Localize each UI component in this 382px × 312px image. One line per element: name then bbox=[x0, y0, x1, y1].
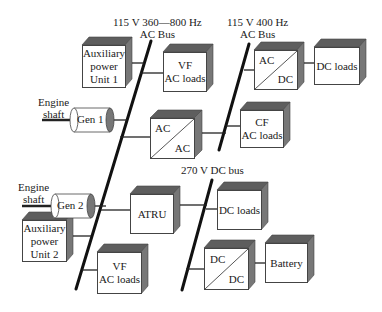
generator-2: Gen 2 bbox=[57, 199, 84, 211]
dc-loads-top: DC loads bbox=[314, 47, 360, 85]
dcdc-input-label: DC bbox=[210, 253, 225, 266]
engine-shaft-2-label: Engine shaft bbox=[18, 181, 49, 205]
cf-bus-voltage: 115 V 400 Hz bbox=[227, 16, 288, 28]
apu2-line1: Auxiliary bbox=[23, 222, 65, 235]
cf-ac-loads: CFAC loads bbox=[240, 110, 284, 148]
atru-label: ATRU bbox=[138, 208, 167, 221]
vf-ac-loads-bottom: VFAC loads bbox=[97, 252, 142, 294]
ac-dc-converter: AC DC bbox=[254, 50, 298, 90]
vf-ac-loads-top: VFAC loads bbox=[163, 52, 207, 92]
vf-top-top bbox=[163, 44, 213, 52]
engine-shaft-1-label: Engine shaft bbox=[38, 96, 69, 120]
vf-top-line2: AC loads bbox=[164, 72, 205, 85]
acac-input-label: AC bbox=[155, 122, 170, 135]
shaft2-text: shaft bbox=[18, 193, 49, 205]
auxiliary-power-unit-2: AuxiliarypowerUnit 2 bbox=[22, 220, 67, 262]
engine2-text: Engine bbox=[18, 181, 49, 193]
apu1-line3: Unit 1 bbox=[83, 73, 125, 86]
dc-bus-label: 270 V DC bus bbox=[181, 164, 244, 176]
cf-line2: AC loads bbox=[241, 129, 282, 142]
engine1-text: Engine bbox=[38, 96, 69, 108]
vf-top-line1: VF bbox=[164, 59, 205, 72]
vf-bus-voltage: 115 V 360—800 Hz bbox=[113, 16, 202, 28]
apu1-side bbox=[125, 37, 132, 87]
apu1-line2: power bbox=[83, 60, 125, 73]
dc-loads-mid-label: DC loads bbox=[219, 204, 260, 217]
battery-label: Battery bbox=[270, 257, 302, 270]
atru: ATRU bbox=[130, 194, 174, 234]
vf-bot-line1: VF bbox=[99, 260, 140, 273]
dcdc-output-label: DC bbox=[229, 273, 244, 286]
acac-output-label: AC bbox=[175, 142, 190, 155]
battery: Battery bbox=[265, 243, 308, 283]
dc-loads-mid: DC loads bbox=[217, 190, 262, 230]
vf-bus-label: 115 V 360—800 Hz AC Bus bbox=[113, 16, 202, 40]
cf-bus-type: AC Bus bbox=[227, 28, 288, 40]
cf-line1: CF bbox=[241, 116, 282, 129]
ac-ac-converter: AC AC bbox=[150, 118, 195, 159]
vf-bot-line2: AC loads bbox=[99, 273, 140, 286]
auxiliary-power-unit-1: AuxiliarypowerUnit 1 bbox=[82, 45, 126, 88]
shaft1-text: shaft bbox=[38, 108, 69, 120]
generator-1: Gen 1 bbox=[77, 113, 104, 125]
apu2-line2: power bbox=[23, 235, 65, 248]
vf-bus-type: AC Bus bbox=[113, 28, 202, 40]
acdc-input-label: AC bbox=[259, 54, 274, 67]
dc-dc-converter: DC DC bbox=[204, 248, 249, 290]
apu1-line1: Auxiliary bbox=[83, 47, 125, 60]
dc-loads-top-label: DC loads bbox=[316, 60, 357, 73]
cf-bus-label: 115 V 400 Hz AC Bus bbox=[227, 16, 288, 40]
acdc-output-label: DC bbox=[278, 73, 293, 86]
apu2-line3: Unit 2 bbox=[23, 248, 65, 261]
